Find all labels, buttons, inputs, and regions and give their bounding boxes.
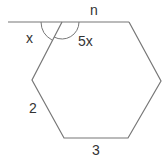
label-5x: 5x xyxy=(78,33,93,49)
label-x: x xyxy=(26,30,33,46)
angle-arc-x xyxy=(41,22,52,40)
hexagon-diagram: n x 5x 2 3 xyxy=(0,0,168,161)
label-n: n xyxy=(90,2,98,18)
label-side-3: 3 xyxy=(92,142,100,158)
label-side-2: 2 xyxy=(29,100,37,116)
